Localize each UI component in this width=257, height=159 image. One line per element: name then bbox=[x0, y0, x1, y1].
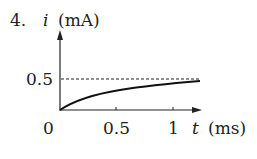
x-axis-arrow-icon bbox=[192, 107, 202, 113]
plot-area bbox=[0, 0, 257, 159]
current-curve bbox=[60, 81, 200, 110]
y-axis-arrow-icon bbox=[57, 30, 63, 40]
